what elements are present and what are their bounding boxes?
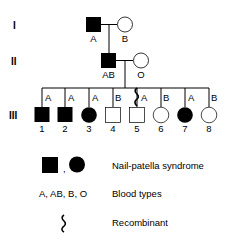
pedigree-diagram: I II III A B AB O A 1 A 2 A 3 <box>0 0 231 244</box>
generation-label-iii: III <box>9 110 18 121</box>
unaffected-female-symbol <box>153 107 169 123</box>
generation-i: A B <box>86 17 133 53</box>
legend-affected-label: Nail-patella syndrome <box>112 160 204 171</box>
generation-label-i: I <box>13 20 16 31</box>
affected-male-symbol <box>35 107 50 122</box>
individual-number: 2 <box>62 123 67 134</box>
blood-type-label: B <box>115 92 121 103</box>
affected-female-symbol <box>81 107 97 123</box>
individual-number: 3 <box>86 123 91 134</box>
blood-type-label: A <box>92 92 99 103</box>
blood-type-label: AB <box>102 69 115 80</box>
blood-type-label: B <box>211 92 217 103</box>
individual-number: 1 <box>39 123 44 134</box>
individual-number: 4 <box>110 123 115 134</box>
unaffected-male-symbol <box>130 108 145 123</box>
unaffected-female-symbol <box>201 107 217 123</box>
legend: , Nail-patella syndrome A, AB, B, O Bloo… <box>39 157 204 233</box>
individual-number: 5 <box>134 123 139 134</box>
blood-type-label: B <box>163 92 169 103</box>
blood-type-label: A <box>68 92 75 103</box>
unaffected-female-symbol <box>118 17 133 32</box>
blood-type-label: A <box>45 92 52 103</box>
individual-number: 7 <box>182 123 187 134</box>
unaffected-female-symbol <box>134 53 149 68</box>
individual-number: 6 <box>158 123 163 134</box>
affected-male-symbol <box>101 53 116 68</box>
affected-male-symbol <box>58 107 73 122</box>
generation-ii: AB O <box>101 53 149 88</box>
recombinant-legend-icon <box>62 215 65 232</box>
blood-type-label: B <box>122 33 128 44</box>
affected-female-legend-icon <box>69 157 85 173</box>
generation-iii: A 1 A 2 A 3 B 4 A 5 B 6 A 7 B <box>35 88 218 134</box>
affected-male-legend-icon <box>42 157 58 173</box>
blood-type-label: A <box>188 92 195 103</box>
legend-separator: , <box>63 163 66 174</box>
generation-label-ii: II <box>11 56 17 67</box>
legend-recombinant-label: Recombinant <box>112 217 168 228</box>
affected-female-symbol <box>177 107 193 123</box>
blood-type-label: O <box>137 69 144 80</box>
legend-blood-label: Blood types <box>112 188 162 199</box>
affected-male-symbol <box>86 17 101 32</box>
legend-blood-symbols: A, AB, B, O <box>39 188 87 199</box>
blood-type-label: A <box>141 92 148 103</box>
blood-type-label: A <box>90 33 97 44</box>
unaffected-male-symbol <box>106 108 121 123</box>
individual-number: 8 <box>206 123 211 134</box>
